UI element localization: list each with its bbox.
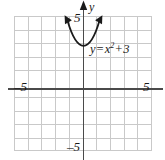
- y-axis-name-label: y: [89, 1, 94, 13]
- y-axis-arrow-icon: [80, 1, 87, 11]
- y-axis-max-label: 5: [74, 11, 81, 24]
- y-axis-min-label: –5: [67, 140, 80, 153]
- equation-constant: 3: [123, 42, 129, 56]
- graph-figure: –5 5 5 –5 y y=x2+3: [0, 0, 165, 160]
- x-axis-min-label: –5: [14, 80, 27, 93]
- equation-annotation: y=x2+3: [90, 43, 130, 56]
- equation-plus: +: [114, 42, 123, 56]
- equation-equals: =: [96, 42, 105, 56]
- x-axis-max-label: 5: [143, 80, 150, 93]
- equation-lhs: y: [90, 42, 96, 56]
